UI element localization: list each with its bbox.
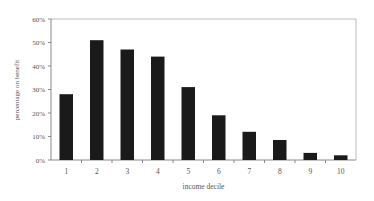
x-tick-label: 5 [186,167,190,176]
bar-decile-8 [273,140,287,160]
y-tick-label: 10% [32,133,45,141]
y-tick-label: 30% [32,86,45,94]
y-axis-ticks: 0%10%20%30%40%50%60% [32,16,51,165]
bar-decile-6 [212,115,226,160]
x-tick-label: 4 [156,167,160,176]
x-tick-label: 8 [278,167,282,176]
chart-canvas: 0%10%20%30%40%50%60% 12345678910 income … [0,0,374,201]
x-axis-ticks: 12345678910 [64,160,344,176]
bar-decile-7 [243,132,257,160]
y-axis-label: percentage on benefit [13,60,21,120]
x-tick-label: 9 [308,167,312,176]
y-tick-label: 60% [32,16,45,24]
bar-decile-10 [334,155,348,160]
x-tick-label: 2 [95,167,99,176]
x-tick-label: 3 [125,167,129,176]
x-axis-label: income decile [183,182,226,191]
bars [60,40,348,160]
x-tick-label: 7 [247,167,251,176]
y-tick-label: 50% [32,39,45,47]
y-tick-label: 20% [32,110,45,118]
y-tick-label: 0% [36,157,46,165]
bar-decile-3 [121,50,135,161]
x-tick-label: 1 [64,167,68,176]
x-tick-label: 10 [337,167,345,176]
bar-decile-2 [90,40,104,160]
y-tick-label: 40% [32,63,45,71]
bar-decile-1 [60,94,74,160]
bar-decile-5 [182,87,196,160]
bar-decile-4 [151,57,165,160]
bar-decile-9 [304,153,318,160]
x-tick-label: 6 [217,167,221,176]
bar-chart: 0%10%20%30%40%50%60% 12345678910 income … [0,0,374,201]
